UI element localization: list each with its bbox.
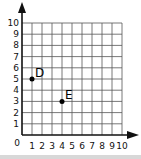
y-axis-arrow-icon [18,2,26,13]
x-tick-label: 10 [116,141,128,151]
tick-labels: 12345678910123456789100 [8,18,128,151]
x-tick-label: 3 [49,141,55,151]
data-points: DE [30,66,73,104]
coordinate-grid-chart: 12345678910123456789100 DE [0,0,141,159]
y-tick-label: 6 [13,63,19,73]
x-tick-label: 7 [89,141,95,151]
bottom-bar [0,155,141,159]
y-tick-label: 9 [13,29,19,39]
x-tick-label: 5 [69,141,75,151]
point-label-e: E [65,88,73,102]
y-tick-label: 5 [13,74,19,84]
x-tick-label: 6 [79,141,85,151]
x-tick-label: 2 [39,141,45,151]
y-tick-label: 7 [13,52,19,62]
data-point-e [60,99,65,104]
y-tick-label: 4 [13,85,19,95]
y-tick-label: 2 [13,108,19,118]
point-label-d: D [35,66,44,80]
origin-label: 0 [14,138,20,148]
x-tick-label: 4 [59,141,65,151]
y-tick-label: 1 [13,119,19,129]
y-tick-label: 3 [13,96,19,106]
y-tick-label: 8 [13,40,19,50]
y-tick-label: 10 [8,18,20,28]
data-point-d [30,77,35,82]
x-tick-label: 9 [109,141,115,151]
x-tick-label: 8 [99,141,105,151]
x-axis-arrow-icon [127,131,139,139]
x-tick-label: 1 [29,141,35,151]
